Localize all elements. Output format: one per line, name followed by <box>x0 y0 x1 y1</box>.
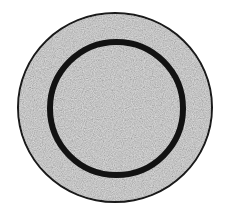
figure <box>0 0 231 212</box>
inner-ring <box>47 39 186 178</box>
